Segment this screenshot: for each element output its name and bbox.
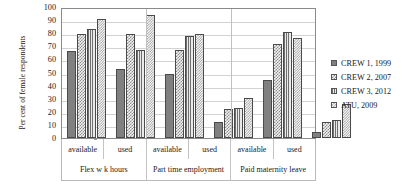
bar	[312, 132, 321, 138]
x-axis-group-labels: Flex w k hoursPart time employmentPaid m…	[61, 159, 316, 181]
y-axis-tick-label: 80	[48, 30, 56, 38]
y-axis-tick-label: 40	[48, 83, 56, 91]
bar	[146, 15, 155, 138]
bar	[67, 51, 76, 138]
bar	[273, 44, 282, 138]
bar-groups	[62, 9, 315, 138]
x-axis-category-label: used	[189, 139, 231, 159]
bar-group	[160, 9, 209, 138]
chart-figure: Per cent of female respondents 100908070…	[0, 0, 419, 193]
y-axis-tick-label: 0	[52, 135, 56, 143]
x-axis-category-label: used	[274, 139, 315, 159]
group-separator	[146, 9, 147, 138]
plot-area	[61, 8, 316, 139]
y-axis-tick-label: 30	[48, 96, 56, 104]
bar	[244, 98, 253, 138]
legend-label: CREW 1, 1999	[341, 59, 391, 68]
bar	[214, 122, 223, 138]
legend-label: ATU, 2009	[341, 101, 377, 110]
y-axis-tick-label: 20	[48, 109, 56, 117]
y-axis-title: Per cent of female respondents	[18, 13, 27, 153]
y-axis-tick-label: 60	[48, 56, 56, 64]
bar	[136, 50, 145, 138]
bar	[87, 29, 96, 138]
y-axis-tick-label: 50	[48, 70, 56, 78]
bar	[116, 69, 125, 138]
y-axis-tick-label: 70	[48, 43, 56, 51]
bar-group	[209, 9, 258, 138]
bar	[322, 122, 331, 138]
bar	[126, 34, 135, 138]
bar	[165, 74, 174, 138]
x-axis-group-label: Flex w k hours	[62, 159, 147, 180]
bar-group	[62, 9, 111, 138]
bar-group	[258, 9, 307, 138]
y-axis-tick-label: 90	[48, 17, 56, 25]
bar-group	[111, 9, 160, 138]
x-axis-group-label: Paid maternity leave	[231, 159, 315, 180]
legend-swatch-icon	[331, 88, 337, 94]
legend: CREW 1, 1999CREW 2, 2007CREW 3, 2012ATU,…	[331, 56, 417, 112]
x-axis-group-label: Part time employment	[147, 159, 232, 180]
group-separator	[231, 9, 232, 138]
legend-swatch-icon	[331, 74, 337, 80]
y-axis-tick-labels: 1009080706050403020100	[36, 8, 58, 139]
bar	[332, 120, 341, 138]
bar	[195, 34, 204, 138]
y-axis-tick-label: 10	[48, 122, 56, 130]
legend-item[interactable]: ATU, 2009	[331, 98, 417, 112]
bar	[293, 38, 302, 138]
legend-item[interactable]: CREW 1, 1999	[331, 56, 417, 70]
legend-item[interactable]: CREW 2, 2007	[331, 70, 417, 84]
legend-item[interactable]: CREW 3, 2012	[331, 84, 417, 98]
bar	[283, 32, 292, 138]
bar	[97, 19, 106, 138]
x-axis-category-label: available	[231, 139, 273, 159]
x-axis-category-label: available	[147, 139, 189, 159]
bar	[185, 36, 194, 138]
x-axis-category-label: available	[62, 139, 104, 159]
bar	[234, 108, 243, 138]
bar	[175, 50, 184, 138]
legend-swatch-icon	[331, 102, 337, 108]
bar	[263, 80, 272, 138]
legend-label: CREW 2, 2007	[341, 73, 391, 82]
x-axis-category-label: used	[104, 139, 146, 159]
bar	[77, 34, 86, 138]
x-axis-category-labels: availableusedavailableusedavailableused	[61, 139, 316, 159]
y-axis-tick-label: 100	[44, 4, 56, 12]
legend-label: CREW 3, 2012	[341, 87, 391, 96]
legend-swatch-icon	[331, 60, 337, 66]
